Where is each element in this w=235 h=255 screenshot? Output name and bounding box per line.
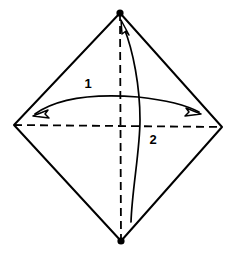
origami-figure-svg: 1 2 <box>0 0 235 255</box>
step-number-1: 1 <box>84 76 91 91</box>
top-corner-dot <box>116 9 123 16</box>
bottom-corner-dot <box>117 237 124 244</box>
origami-diagram: 1 2 <box>0 0 235 255</box>
step-number-2: 2 <box>149 132 156 147</box>
